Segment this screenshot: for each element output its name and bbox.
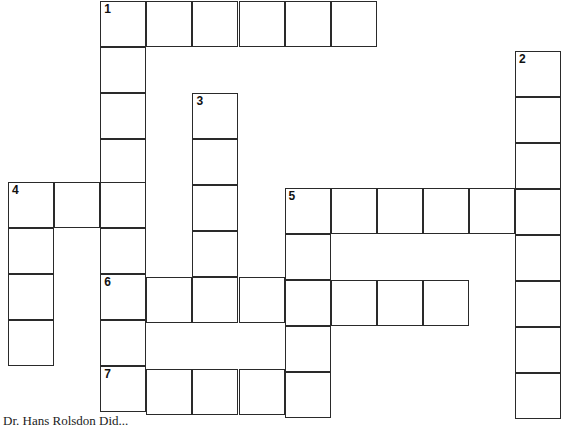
crossword-cell[interactable] bbox=[100, 228, 146, 274]
crossword-cell[interactable]: 2 bbox=[515, 51, 561, 97]
crossword-cell[interactable] bbox=[100, 182, 146, 228]
crossword-cell[interactable] bbox=[423, 280, 469, 326]
clue-number: 6 bbox=[104, 276, 111, 288]
crossword-cell[interactable] bbox=[239, 369, 285, 415]
crossword-cell[interactable] bbox=[469, 188, 515, 234]
crossword-cell[interactable] bbox=[8, 228, 54, 274]
crossword-cell[interactable] bbox=[515, 97, 561, 143]
clue-number: 2 bbox=[519, 53, 526, 65]
crossword-cell[interactable] bbox=[146, 277, 192, 323]
footer-credit-text: Dr. Hans Rolsdon Did... bbox=[3, 413, 128, 429]
crossword-cell[interactable] bbox=[239, 277, 285, 323]
crossword-cell[interactable] bbox=[285, 326, 331, 372]
crossword-cell[interactable] bbox=[377, 280, 423, 326]
crossword-cell[interactable]: 4 bbox=[8, 182, 54, 228]
crossword-cell[interactable]: 3 bbox=[192, 93, 238, 139]
crossword-cell[interactable] bbox=[423, 188, 469, 234]
crossword-cell[interactable] bbox=[331, 280, 377, 326]
crossword-cell[interactable] bbox=[192, 231, 238, 277]
clue-number: 3 bbox=[196, 95, 203, 107]
crossword-cell[interactable] bbox=[285, 234, 331, 280]
clue-number: 7 bbox=[104, 368, 111, 380]
crossword-cell[interactable] bbox=[331, 1, 377, 47]
crossword-cell[interactable] bbox=[192, 139, 238, 185]
crossword-cell[interactable]: 7 bbox=[100, 366, 146, 412]
crossword-cell[interactable] bbox=[100, 139, 146, 185]
crossword-cell[interactable] bbox=[146, 1, 192, 47]
clue-number: 5 bbox=[289, 190, 296, 202]
crossword-cell[interactable] bbox=[100, 47, 146, 93]
crossword-cell[interactable] bbox=[100, 320, 146, 366]
crossword-cell[interactable] bbox=[192, 185, 238, 231]
crossword-cell[interactable]: 5 bbox=[285, 188, 331, 234]
crossword-cell[interactable]: 6 bbox=[100, 274, 146, 320]
crossword-cell[interactable] bbox=[8, 320, 54, 366]
crossword-cell[interactable] bbox=[192, 277, 238, 323]
clue-number: 4 bbox=[12, 184, 19, 196]
crossword-cell[interactable] bbox=[515, 327, 561, 373]
crossword-cell[interactable] bbox=[192, 1, 238, 47]
crossword-cell[interactable] bbox=[8, 274, 54, 320]
crossword-cell[interactable] bbox=[54, 182, 100, 228]
crossword-cell[interactable] bbox=[515, 143, 561, 189]
crossword-cell[interactable]: 1 bbox=[100, 1, 146, 47]
crossword-cell[interactable] bbox=[377, 188, 423, 234]
crossword-cell[interactable] bbox=[515, 281, 561, 327]
crossword-cell[interactable] bbox=[285, 372, 331, 418]
crossword-cell[interactable] bbox=[285, 280, 331, 326]
clue-number: 1 bbox=[104, 3, 111, 15]
crossword-cell[interactable] bbox=[239, 1, 285, 47]
crossword-cell[interactable] bbox=[285, 1, 331, 47]
crossword-cell[interactable] bbox=[192, 369, 238, 415]
crossword-cell[interactable] bbox=[515, 373, 561, 419]
crossword-cell[interactable] bbox=[515, 235, 561, 281]
crossword-cell[interactable] bbox=[331, 188, 377, 234]
crossword-cell[interactable] bbox=[100, 93, 146, 139]
crossword-cell[interactable] bbox=[146, 369, 192, 415]
crossword-cell[interactable] bbox=[515, 189, 561, 235]
